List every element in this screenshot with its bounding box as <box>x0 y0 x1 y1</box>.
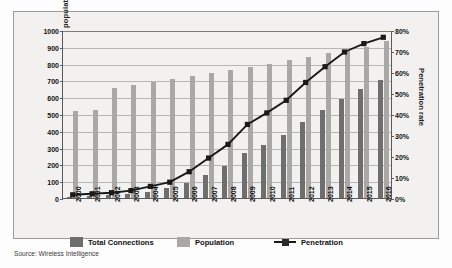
penetration-marker-2010 <box>264 110 269 115</box>
y-axis-left-tick-label: 300 <box>47 145 59 152</box>
x-axis-tick-label-2001: 2001 <box>94 186 101 202</box>
x-axis-tick-label-2011: 2011 <box>288 187 295 202</box>
legend-label-penetration: Penetration <box>301 238 343 247</box>
chart-legend: Total ConnectionsPopulationPenetration <box>62 234 392 250</box>
penetration-marker-2013 <box>322 64 327 69</box>
legend-swatch-population <box>177 237 190 247</box>
x-axis-tick-label-2003: 2003 <box>133 186 140 202</box>
penetration-line-series <box>63 31 393 199</box>
y-axis-right-tick-label: 60% <box>395 70 409 77</box>
penetration-marker-2009 <box>245 122 250 127</box>
x-axis-tick-label-2005: 2005 <box>172 186 179 202</box>
y-axis-left-tick-label: 400 <box>47 128 59 135</box>
y-axis-left-tick-label: 500 <box>47 112 59 119</box>
y-axis-right-tick-label: 30% <box>395 133 409 140</box>
y-axis-left-tick-mark <box>60 199 63 200</box>
x-axis-tick-label-2006: 2006 <box>191 186 198 202</box>
y-axis-left-tick-label: 1000 <box>43 28 59 35</box>
y-axis-right-title: Penetration rate <box>412 42 426 152</box>
x-axis-tick-label-2004: 2004 <box>152 186 159 202</box>
x-axis-tick-label-2000: 2000 <box>75 186 82 202</box>
y-axis-right-tick-label: 0% <box>395 196 405 203</box>
x-axis-tick-label-2014: 2014 <box>346 186 353 202</box>
y-axis-left-tick-label: 0 <box>55 196 59 203</box>
legend-label-total_connections: Total Connections <box>88 238 154 247</box>
legend-item-penetration[interactable]: Penetration <box>274 237 343 247</box>
x-axis-tick-label-2002: 2002 <box>114 186 121 202</box>
penetration-marker-2014 <box>342 49 347 54</box>
legend-swatch-total_connections <box>70 237 83 247</box>
plot-area: 01002003004005006007008009001000 0%10%20… <box>62 31 392 199</box>
y-axis-left-tick-label: 200 <box>47 162 59 169</box>
penetration-marker-2008 <box>225 142 230 147</box>
source-caption: Source: Wireless Intelligence <box>14 250 99 257</box>
y-axis-right-tick-label: 70% <box>395 49 409 56</box>
x-axis-tick-label-2010: 2010 <box>269 186 276 202</box>
chart-frame: Million connections and population Penet… <box>13 11 439 239</box>
y-axis-left-tick-label: 900 <box>47 44 59 51</box>
x-axis-tick-label-2013: 2013 <box>327 186 334 202</box>
y-axis-right-tick-label: 80% <box>395 28 409 35</box>
legend-item-total_connections[interactable]: Total Connections <box>70 237 154 247</box>
y-axis-right-tick-label: 10% <box>395 175 409 182</box>
penetration-marker-2006 <box>187 169 192 174</box>
legend-item-population[interactable]: Population <box>177 237 234 247</box>
legend-line-marker-icon <box>274 237 296 247</box>
penetration-marker-2005 <box>167 180 172 185</box>
legend-label-population: Population <box>195 238 234 247</box>
x-axis-tick-label-2009: 2009 <box>249 186 256 202</box>
x-axis-tick-label-2012: 2012 <box>308 186 315 202</box>
y-axis-left-tick-label: 800 <box>47 61 59 68</box>
penetration-marker-2007 <box>206 155 211 160</box>
y-axis-right-tick-label: 50% <box>395 91 409 98</box>
x-axis-tick-label-2007: 2007 <box>211 186 218 202</box>
y-axis-right-tick-label: 40% <box>395 112 409 119</box>
x-axis-labels: 2000200120022003200420052006200720082009… <box>62 202 392 236</box>
y-axis-left-tick-label: 700 <box>47 78 59 85</box>
x-axis-tick-label-2016: 2016 <box>385 186 392 202</box>
penetration-marker-2012 <box>303 80 308 85</box>
penetration-line-path <box>73 37 384 195</box>
y-axis-left-tick-label: 600 <box>47 95 59 102</box>
penetration-marker-2011 <box>284 98 289 103</box>
penetration-marker-2016 <box>381 35 386 40</box>
y-axis-right-tick-label: 20% <box>395 154 409 161</box>
y-axis-left-tick-label: 100 <box>47 179 59 186</box>
x-axis-tick-label-2008: 2008 <box>230 186 237 202</box>
x-axis-tick-label-2015: 2015 <box>366 186 373 202</box>
chart-figure-root: Million connections and population Penet… <box>0 0 452 268</box>
penetration-marker-2015 <box>361 41 366 46</box>
